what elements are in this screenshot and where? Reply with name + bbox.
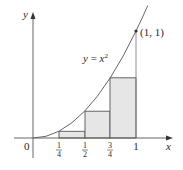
curve-label-eq: =	[88, 52, 100, 64]
tick-3-4-den: 4	[108, 150, 112, 159]
tick-1-2-num: 1	[83, 141, 87, 150]
curve-label: y = x2	[82, 52, 109, 64]
tick-1-4-num: 1	[57, 141, 61, 150]
tick-3-4: 3 4	[107, 141, 113, 159]
y-axis-arrow-icon	[31, 12, 36, 19]
x-axis-label: x	[165, 140, 171, 152]
origin-label: 0	[24, 140, 30, 152]
point-label: (1, 1)	[140, 26, 164, 39]
riemann-sum-diagram: y x 0 (1, 1) y = x2 1 4 1 2 3 4 1	[0, 0, 183, 170]
tick-1-4-den: 4	[57, 150, 61, 159]
tick-1: 1	[133, 140, 139, 152]
rectangle-1	[59, 131, 85, 138]
rectangle-2	[85, 111, 110, 138]
tick-3-4-num: 3	[108, 141, 112, 150]
tick-1-4: 1 4	[56, 141, 62, 159]
curve-label-exponent: 2	[105, 52, 109, 60]
point-1-1	[134, 29, 137, 32]
y-axis-label: y	[22, 8, 28, 20]
tick-1-2: 1 2	[82, 141, 88, 159]
tick-1-2-den: 2	[83, 150, 87, 159]
rectangle-3	[110, 78, 136, 138]
riemann-rectangles	[59, 78, 136, 138]
